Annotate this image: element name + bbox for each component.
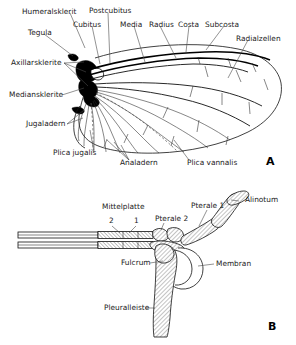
label-mittelplatte-2: 2 (109, 216, 114, 225)
label-subcosta: Subcosta (205, 20, 239, 29)
label-postcubitus: Postcubitus (89, 6, 132, 15)
label-alinotum: Alinotum (245, 195, 278, 204)
label-radialzellen: Radialzellen (236, 34, 281, 43)
label-analadern: Analadern (120, 158, 158, 167)
label-media: Media (120, 20, 142, 29)
label-plica-vannalis: Plica vannalis (187, 158, 237, 167)
label-tegula: Tegula (27, 28, 52, 37)
label-fulcrum: Fulcrum (121, 258, 151, 267)
panel-a-letter: A (266, 155, 275, 168)
figure-root: Humeralsklerit Postcubitus Tegula Cubitu… (0, 0, 296, 345)
label-humeralsklerit: Humeralsklerit (22, 7, 76, 16)
label-mediansklerite: Mediansklerite (9, 90, 64, 99)
label-radius: Radius (149, 20, 174, 29)
label-mittelplatte: Mittelplatte (102, 202, 145, 211)
label-membran: Membran (216, 259, 251, 268)
fulcrum-knob (155, 244, 174, 263)
label-costa: Costa (178, 20, 199, 29)
label-axillarsklerite: Axillarsklerite (11, 58, 62, 67)
figure-background (0, 0, 296, 345)
label-cubitus: Cubitus (73, 20, 101, 29)
label-pterale-2: Pterale 2 (155, 214, 188, 223)
anatomy-figure-svg: Humeralsklerit Postcubitus Tegula Cubitu… (0, 0, 296, 345)
label-jugaladern: Jugaladern (25, 119, 66, 128)
label-mittelplatte-1: 1 (134, 216, 139, 225)
label-pleuralleiste: Pleuralleiste (104, 303, 150, 312)
label-plica-jugalis: Plica jugalis (53, 148, 97, 157)
panel-b-letter: B (268, 320, 276, 333)
label-pterale-1: Pterale 1 (191, 201, 224, 210)
